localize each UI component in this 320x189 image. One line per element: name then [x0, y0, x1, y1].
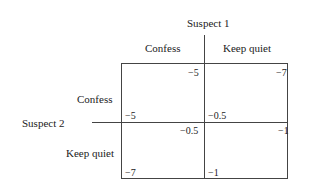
payoff-cc-p2: −5 — [125, 110, 136, 121]
payoff-cc-p1: −5 — [188, 67, 199, 78]
column-divider — [204, 35, 205, 179]
player2-label: Suspect 2 — [22, 117, 64, 129]
payoff-kk-p1: −1 — [278, 125, 289, 136]
col-strategy-keep-quiet: Keep quiet — [223, 42, 271, 54]
payoff-kk-p2: −1 — [208, 167, 219, 178]
row-strategy-keep-quiet: Keep quiet — [66, 147, 114, 159]
player1-label: Suspect 1 — [187, 17, 229, 29]
col-strategy-confess: Confess — [145, 42, 180, 54]
payoff-kc-p1: −0.5 — [180, 125, 198, 136]
payoff-kc-p2: −7 — [125, 167, 136, 178]
payoff-ck-p2: −0.5 — [208, 110, 226, 121]
row-divider — [92, 122, 288, 123]
row-strategy-confess: Confess — [77, 93, 112, 105]
payoff-ck-p1: −7 — [276, 67, 287, 78]
